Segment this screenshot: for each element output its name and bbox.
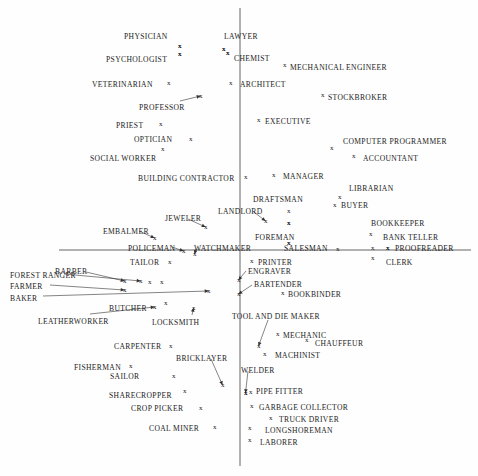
data-point-marker: x	[167, 80, 171, 87]
leader-line	[86, 272, 125, 281]
point-label: CHAUFFEUR	[315, 340, 363, 348]
point-label: WATCHMAKER	[194, 245, 251, 253]
data-point-marker: x	[369, 231, 373, 238]
point-label: TOOL AND DIE MAKER	[232, 313, 320, 321]
data-point-marker: x	[164, 300, 168, 307]
data-point-marker: x	[189, 136, 193, 143]
data-point-marker: x	[330, 145, 334, 152]
data-point-marker: x	[287, 220, 291, 227]
point-label: BRICKLAYER	[176, 355, 227, 363]
data-point-marker: x	[386, 245, 390, 252]
data-point-marker: x	[264, 218, 268, 225]
data-point-marker: x	[169, 343, 173, 350]
point-label: BUILDING CONTRACTOR	[138, 175, 235, 183]
data-point-marker: x	[305, 337, 309, 344]
point-label: EXECUTIVE	[265, 118, 311, 126]
point-label: DRAFTSMAN	[253, 196, 303, 204]
point-label: PROOFREADER	[395, 245, 454, 253]
point-label: JEWELER	[165, 215, 201, 223]
point-label: COMPUTER PROGRAMMER	[343, 138, 447, 146]
data-point-marker: x	[244, 390, 248, 397]
data-point-marker: x	[248, 437, 252, 444]
data-point-marker: x	[182, 248, 186, 255]
data-point-marker: x	[172, 373, 176, 380]
point-label: ARCHITECT	[240, 81, 286, 89]
data-point-marker: x	[204, 224, 208, 231]
data-point-marker: x	[287, 208, 291, 215]
point-label: BUYER	[341, 202, 369, 210]
data-point-marker: x	[283, 62, 287, 69]
data-point-marker: x	[371, 245, 375, 252]
data-point-marker: x	[221, 382, 225, 389]
data-point-marker: x	[193, 251, 197, 258]
data-point-marker: x	[352, 153, 356, 160]
point-label: LEATHERWORKER	[38, 318, 109, 326]
data-point-marker: x	[244, 174, 248, 181]
point-label: BOOKKEEPER	[371, 220, 425, 228]
point-label: MACHINIST	[275, 352, 320, 360]
data-point-marker: x	[199, 93, 203, 100]
point-label: COAL MINER	[149, 425, 199, 433]
data-point-marker: x	[129, 363, 133, 370]
data-point-marker: x	[168, 259, 172, 266]
data-point-marker: x	[160, 279, 164, 286]
data-point-marker: x	[123, 278, 127, 285]
leader-line	[180, 96, 201, 101]
point-label: LAWYER	[224, 33, 258, 41]
point-label: PSYCHOLOGIST	[106, 56, 167, 64]
point-label: VETERINARIAN	[92, 81, 153, 89]
point-label: MANAGER	[283, 173, 324, 181]
point-label: CARPENTER	[114, 343, 161, 351]
data-point-marker: x	[178, 43, 182, 50]
data-point-marker: x	[222, 46, 226, 53]
data-point-marker: x	[257, 343, 261, 350]
data-point-marker: x	[183, 388, 187, 395]
data-point-marker: x	[257, 117, 261, 124]
data-point-marker: x	[338, 194, 342, 201]
point-label: WELDER	[241, 367, 275, 375]
point-label: ACCOUNTANT	[363, 155, 418, 163]
data-point-marker: x	[192, 305, 196, 312]
data-point-marker: x	[148, 279, 152, 286]
point-label: BOOKBINDER	[288, 291, 341, 299]
point-label: TRUCK DRIVER	[279, 416, 339, 424]
point-label: LANDLORD	[218, 208, 263, 216]
data-point-marker: x	[178, 51, 182, 58]
data-point-marker: x	[207, 288, 211, 295]
point-label: PRIEST	[116, 122, 143, 130]
data-point-marker: x	[161, 146, 165, 153]
point-label: BUTCHER	[109, 305, 147, 313]
point-label: SHARECROPPER	[109, 392, 172, 400]
point-label: FOREST RANGER	[10, 272, 76, 280]
data-point-marker: x	[371, 255, 375, 262]
data-point-marker: x	[276, 331, 280, 338]
data-point-marker: x	[248, 425, 252, 432]
point-label: CLERK	[386, 259, 413, 267]
point-label: TAILOR	[130, 259, 159, 267]
point-label: OPTICIAN	[134, 136, 172, 144]
data-point-marker: x	[321, 92, 325, 99]
occupational-prestige-scatter-plot: PHYSICIANLAWYERPSYCHOLOGISTCHEMISTMECHAN…	[0, 0, 478, 476]
point-label: SAILOR	[110, 373, 140, 381]
data-point-marker: x	[281, 290, 285, 297]
data-point-marker: x	[229, 80, 233, 87]
leader-line	[50, 285, 125, 290]
point-label: SOCIAL WORKER	[90, 155, 156, 163]
point-label: PRINTER	[258, 259, 292, 267]
point-label: CROP PICKER	[131, 405, 183, 413]
point-label: BARTENDER	[254, 281, 302, 289]
point-label: BANK TELLER	[383, 234, 438, 242]
point-label: PIPE FITTER	[256, 388, 303, 396]
point-label: LONGSHOREMAN	[265, 427, 333, 435]
point-label: FARMER	[10, 283, 43, 291]
point-label: EMBALMER	[103, 228, 149, 236]
point-label: LOCKSMITH	[152, 319, 199, 327]
data-point-marker: x	[153, 304, 157, 311]
data-point-marker: x	[159, 121, 163, 128]
data-point-marker: x	[333, 202, 337, 209]
data-point-marker: x	[250, 403, 254, 410]
point-label: PROFESSOR	[139, 104, 185, 112]
data-point-marker: x	[263, 351, 267, 358]
data-point-marker: x	[287, 240, 291, 247]
data-point-marker: x	[269, 415, 273, 422]
